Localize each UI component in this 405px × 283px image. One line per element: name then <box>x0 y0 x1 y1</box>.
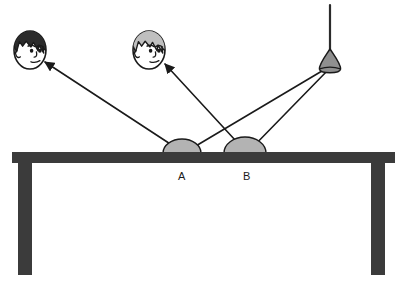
mirror-a-label: A <box>178 170 186 182</box>
pendant-lamp <box>319 5 340 73</box>
head-right-eye-right <box>157 49 161 53</box>
mirror-b-label: B <box>243 170 251 182</box>
table-top <box>12 152 395 163</box>
head-right-eye-left <box>149 49 153 53</box>
head-left-eye-right <box>38 49 42 53</box>
mirror-labels: A B <box>178 170 251 182</box>
lamp-bulb-icon <box>319 49 340 73</box>
reflected-ray-a-to-dark-head <box>45 62 184 153</box>
table-leg-right <box>371 163 385 275</box>
head-left-eye-left <box>30 49 34 53</box>
table-leg-left <box>18 163 32 275</box>
reflection-diagram-canvas: A B <box>0 0 405 283</box>
observer-head-dark <box>14 29 46 69</box>
diagram-svg: A B <box>0 0 405 283</box>
observer-head-light <box>133 29 165 69</box>
table <box>12 152 395 275</box>
incident-ray-lamp-to-b <box>247 69 329 153</box>
